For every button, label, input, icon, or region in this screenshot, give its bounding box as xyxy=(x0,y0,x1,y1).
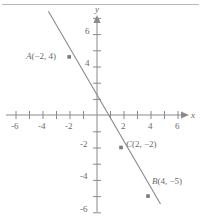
x-axis-arrowhead xyxy=(181,111,189,118)
data-point-a-label: A(−2, 4) xyxy=(26,52,56,61)
y-tick-label-neg4: -4 xyxy=(80,172,88,181)
x-tick-label-neg6: -6 xyxy=(11,122,19,131)
data-point-b-coords: (4, −5) xyxy=(158,176,183,186)
data-point-c-label: C(2, −2) xyxy=(126,140,157,149)
data-point-a-marker xyxy=(67,55,71,59)
y-axis-arrowhead xyxy=(93,15,100,23)
data-point-a-coords: (−2, 4) xyxy=(32,51,57,61)
x-axis-label: x xyxy=(191,111,195,120)
data-point-b-label: B(4, −5) xyxy=(152,177,182,186)
coordinate-plane xyxy=(0,0,201,219)
x-tick-label-neg2: -2 xyxy=(65,122,73,131)
y-tick-label-pos6: 6 xyxy=(85,27,90,36)
y-tick-label-pos4: 4 xyxy=(85,59,90,68)
data-point-c-coords: (2, −2) xyxy=(132,139,157,149)
x-tick-label-pos2: 2 xyxy=(121,122,126,131)
x-tick-label-pos6: 6 xyxy=(175,122,180,131)
y-tick-label-neg2: -2 xyxy=(80,140,88,149)
x-tick-label-neg4: -4 xyxy=(38,122,46,131)
data-point-b-marker xyxy=(146,194,150,198)
x-tick-label-pos4: 4 xyxy=(148,122,153,131)
y-tick-label-neg6: -6 xyxy=(80,205,88,214)
data-point-c-marker xyxy=(119,146,123,150)
plotted-line xyxy=(48,11,160,204)
graph-screenshot: -6 -4 -2 2 4 6 6 4 -2 -4 -6 x y A(−2, 4)… xyxy=(0,0,201,219)
y-axis-label: y xyxy=(95,5,99,14)
